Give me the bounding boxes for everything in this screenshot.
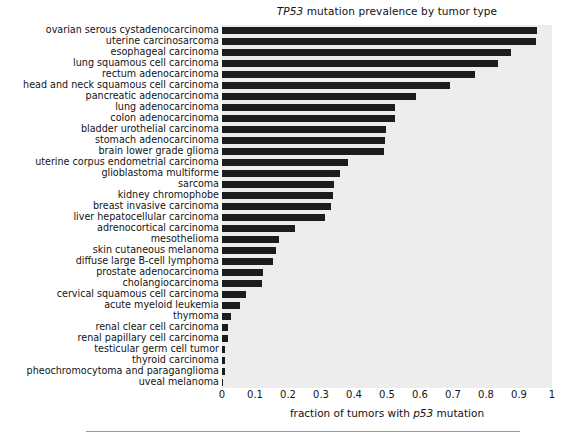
bar-category-label: rectum adenocarcinoma (102, 68, 219, 80)
bar (222, 368, 225, 375)
bar-row: uterine carcinosarcoma (0, 36, 568, 47)
bar-category-label: uveal melanoma (139, 376, 219, 388)
bar-category-label: head and neck squamous cell carcinoma (23, 79, 219, 91)
bar-row: cervical squamous cell carcinoma (0, 289, 568, 300)
x-axis-label-suffix: mutation (433, 407, 484, 419)
bar-category-label: pheochromocytoma and paraganglioma (27, 365, 219, 377)
bar (222, 137, 385, 144)
bar-category-label: cholangiocarcinoma (123, 277, 219, 289)
bar-row: lung adenocarcinoma (0, 102, 568, 113)
bar (222, 225, 295, 232)
bar (222, 170, 340, 177)
bar (222, 49, 511, 56)
bar-row: lung squamous cell carcinoma (0, 58, 568, 69)
bar-row: glioblastoma multiforme (0, 168, 568, 179)
x-axis-label-gene: p53 (413, 407, 433, 419)
bar-row: sarcoma (0, 179, 568, 190)
bar-category-label: testicular germ cell tumor (94, 343, 219, 355)
bar-category-label: glioblastoma multiforme (101, 167, 219, 179)
bar-category-label: uterine carcinosarcoma (106, 35, 219, 47)
chart-title-gene: TP53 (277, 5, 304, 17)
bar-category-label: bladder urothelial carcinoma (81, 123, 219, 135)
bar (222, 93, 416, 100)
bar-row: testicular germ cell tumor (0, 344, 568, 355)
bar (222, 126, 386, 133)
bar (222, 357, 225, 364)
bar-category-label: sarcoma (178, 178, 219, 190)
bar (222, 291, 246, 298)
bar (222, 258, 273, 265)
bar-row: ovarian serous cystadenocarcinoma (0, 25, 568, 36)
bar (222, 379, 223, 386)
bar-category-label: brain lower grade glioma (99, 145, 219, 157)
bar-category-label: thymoma (173, 310, 219, 322)
bar-category-label: ovarian serous cystadenocarcinoma (46, 24, 219, 36)
bar-row: uveal melanoma (0, 377, 568, 388)
bar (222, 313, 231, 320)
bar (222, 192, 333, 199)
bar-category-label: prostate adenocarcinoma (96, 266, 219, 278)
bar-category-label: cervical squamous cell carcinoma (57, 288, 219, 300)
bar (222, 236, 279, 243)
bar-row: pancreatic adenocarcinoma (0, 91, 568, 102)
bar-category-label: liver hepatocellular carcinoma (73, 211, 219, 223)
bar (222, 247, 276, 254)
bar-category-label: diffuse large B-cell lymphoma (76, 255, 219, 267)
bar-category-label: esophageal carcinoma (111, 46, 219, 58)
bar (222, 203, 331, 210)
bar-row: thymoma (0, 311, 568, 322)
bar (222, 27, 537, 34)
x-axis-ticks: 00.10.20.30.40.50.60.70.80.91 (0, 389, 568, 405)
bar-category-label: colon adenocarcinoma (110, 112, 219, 124)
bar (222, 82, 450, 89)
bar (222, 148, 384, 155)
bar-category-label: stomach adenocarcinoma (95, 134, 219, 146)
chart-title: TP53 mutation prevalence by tumor type (222, 5, 552, 17)
bar-category-label: skin cutaneous melanoma (93, 244, 219, 256)
bar (222, 335, 228, 342)
bar-category-label: renal papillary cell carcinoma (78, 332, 219, 344)
chart-figure: TP53 mutation prevalence by tumor type o… (0, 0, 568, 437)
bar-row: stomach adenocarcinoma (0, 135, 568, 146)
bar (222, 159, 348, 166)
x-axis-label: fraction of tumors with p53 mutation (222, 407, 552, 419)
bar-row: acute myeloid leukemia (0, 300, 568, 311)
bar-row: uterine corpus endometrial carcinoma (0, 157, 568, 168)
bar-category-label: lung adenocarcinoma (115, 101, 219, 113)
bar-row: kidney chromophobe (0, 190, 568, 201)
bar (222, 115, 395, 122)
bar-rows-container: ovarian serous cystadenocarcinomauterine… (0, 25, 568, 388)
footer-divider (86, 431, 520, 432)
bar (222, 269, 263, 276)
bar (222, 71, 475, 78)
bar-category-label: pancreatic adenocarcinoma (86, 90, 219, 102)
bar-category-label: adrenocortical carcinoma (97, 222, 219, 234)
bar-category-label: renal clear cell carcinoma (95, 321, 219, 333)
bar-category-label: kidney chromophobe (118, 189, 219, 201)
bar-row: adrenocortical carcinoma (0, 223, 568, 234)
bar-category-label: thyroid carcinoma (132, 354, 219, 366)
bar (222, 214, 325, 221)
bar-category-label: acute myeloid leukemia (104, 299, 219, 311)
chart-title-rest: mutation prevalence by tumor type (303, 5, 497, 17)
bar-category-label: mesothelioma (151, 233, 219, 245)
bar-row: mesothelioma (0, 234, 568, 245)
bar (222, 302, 240, 309)
bar (222, 346, 225, 353)
bar (222, 324, 228, 331)
bar-category-label: lung squamous cell carcinoma (73, 57, 219, 69)
bar-category-label: uterine corpus endometrial carcinoma (35, 156, 219, 168)
bar (222, 280, 262, 287)
bar-row: renal papillary cell carcinoma (0, 333, 568, 344)
bar (222, 104, 395, 111)
bar (222, 181, 334, 188)
bar-row: liver hepatocellular carcinoma (0, 212, 568, 223)
bar (222, 60, 498, 67)
bar (222, 38, 536, 45)
bar-category-label: breast invasive carcinoma (93, 200, 219, 212)
bar-row: bladder urothelial carcinoma (0, 124, 568, 135)
bar-row: prostate adenocarcinoma (0, 267, 568, 278)
x-axis-label-prefix: fraction of tumors with (290, 407, 413, 419)
bar-row: diffuse large B-cell lymphoma (0, 256, 568, 267)
bar-row: pheochromocytoma and paraganglioma (0, 366, 568, 377)
